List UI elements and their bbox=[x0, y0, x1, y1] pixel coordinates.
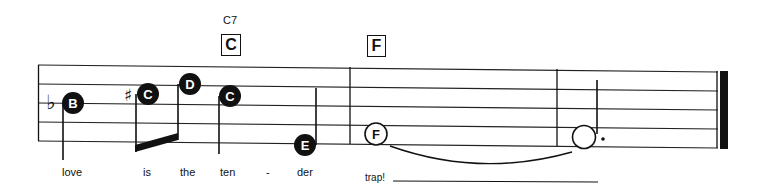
chord-box-c: C bbox=[221, 34, 241, 56]
svg-text:B: B bbox=[68, 96, 77, 111]
chord-name-c7: C7 bbox=[223, 14, 237, 26]
lyric-is: is bbox=[143, 166, 151, 178]
lyric-der: der bbox=[297, 166, 313, 178]
tie bbox=[390, 146, 572, 164]
flat-icon: ♭ bbox=[46, 90, 55, 114]
lyric-love: love bbox=[62, 166, 82, 178]
lyric-hyphen: - bbox=[266, 166, 270, 178]
augmentation-dot bbox=[601, 137, 605, 141]
note-D: D bbox=[179, 73, 201, 95]
note-B: B bbox=[62, 92, 84, 114]
svg-text:D: D bbox=[185, 77, 194, 92]
lyric-trap: trap! bbox=[365, 172, 385, 183]
lyric-ten: ten bbox=[220, 166, 235, 178]
note-F-whole: F bbox=[365, 123, 387, 145]
svg-text:E: E bbox=[301, 138, 310, 153]
note-dotted-half bbox=[573, 126, 605, 149]
final-thick-barline bbox=[720, 71, 728, 149]
svg-text:C: C bbox=[143, 87, 153, 102]
note-C-sharp: C bbox=[137, 83, 159, 105]
svg-text:F: F bbox=[372, 127, 380, 142]
chord-box-f: F bbox=[367, 35, 386, 57]
sharp-icon: ♯ bbox=[124, 85, 132, 105]
note-E: E bbox=[294, 134, 316, 156]
svg-text:C: C bbox=[225, 89, 235, 104]
note-C: C bbox=[219, 85, 241, 107]
lyric-the: the bbox=[180, 166, 195, 178]
lyric-extender-line bbox=[393, 181, 598, 182]
music-staff: ♭ ♯ B C D C E F bbox=[0, 0, 768, 195]
